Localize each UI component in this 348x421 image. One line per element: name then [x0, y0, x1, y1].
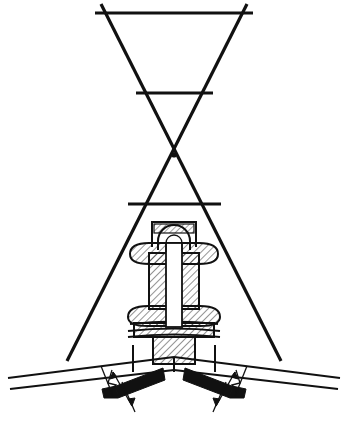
guy-wire-crossing-point — [171, 152, 176, 157]
insulator-central-bore — [166, 243, 182, 327]
drawing-svg: Sectioned insulator mounting at roof rid… — [0, 0, 348, 421]
technical-drawing-canvas: Sectioned insulator mounting at roof rid… — [0, 0, 348, 421]
base-block — [153, 337, 195, 364]
